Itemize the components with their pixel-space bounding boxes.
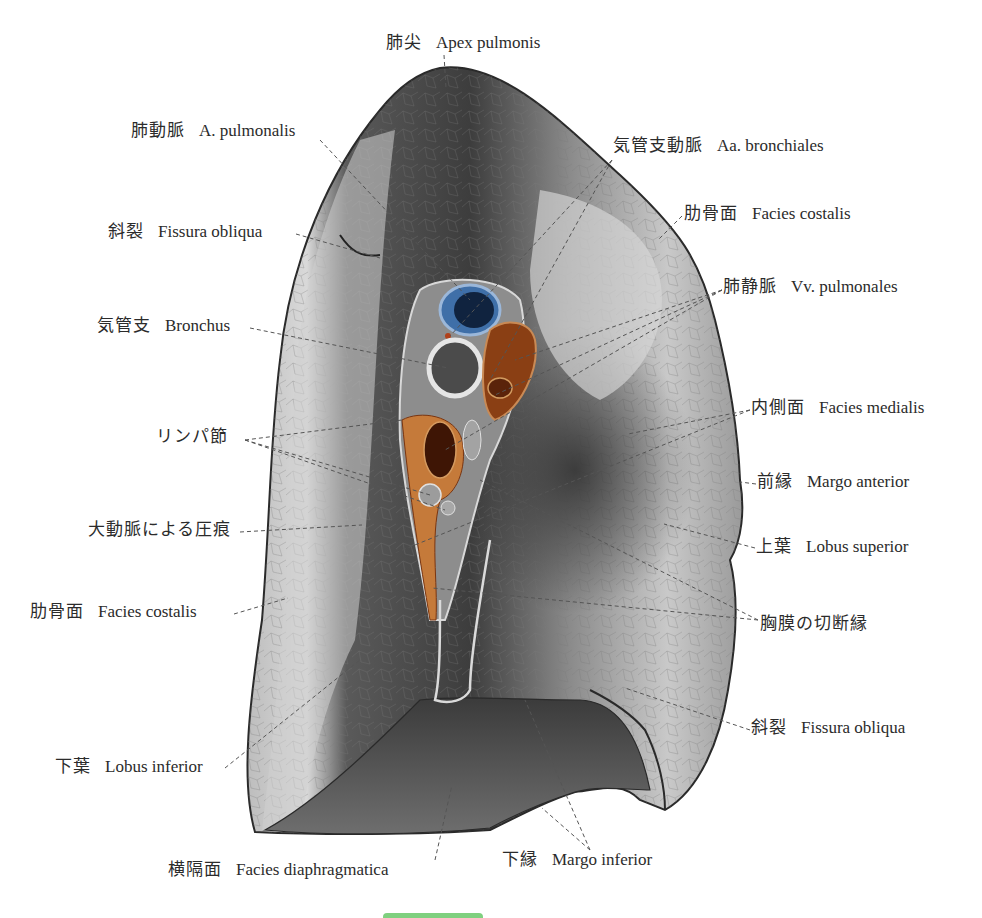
label-ja: 上葉 (756, 537, 792, 556)
label-ja: リンパ節 (156, 427, 228, 446)
label-latin: Facies medialis (819, 398, 924, 417)
label-vv-pulmonales: 肺静脈Vv. pulmonales (723, 277, 898, 297)
lymph-node (463, 420, 481, 460)
label-lobus-inferior: 下葉Lobus inferior (55, 757, 203, 777)
label-a-pulmonalis: 肺動脈A. pulmonalis (131, 121, 295, 141)
label-ja: 斜裂 (751, 718, 787, 737)
label-ja: 肋骨面 (30, 602, 84, 621)
label-ja: 前縁 (757, 472, 793, 491)
leader-line-margo-anterior (740, 482, 756, 484)
label-latin: Bronchus (165, 316, 230, 335)
label-ja: 気管支 (97, 316, 151, 335)
label-fissura-obliqua-upper: 斜裂Fissura obliqua (108, 222, 262, 242)
label-aa-bronchiales: 気管支動脈Aa. bronchiales (613, 136, 824, 156)
label-latin: Lobus inferior (105, 757, 203, 776)
label-latin: Vv. pulmonales (791, 277, 898, 296)
label-latin: Fissura obliqua (158, 222, 262, 241)
label-ja: 下縁 (502, 850, 538, 869)
label-lobus-superior: 上葉Lobus superior (756, 537, 908, 557)
label-latin: Fissura obliqua (801, 718, 905, 737)
label-margo-anterior: 前縁Margo anterior (757, 472, 909, 492)
label-latin: Apex pulmonis (436, 33, 540, 52)
label-bronchus: 気管支Bronchus (97, 316, 230, 336)
label-facies-medialis: 内側面Facies medialis (751, 398, 924, 418)
label-facies-costalis-lower: 肋骨面Facies costalis (30, 602, 197, 622)
label-latin: Facies costalis (752, 204, 851, 223)
label-aortic-impression: 大動脈による圧痕 (88, 520, 231, 540)
bronchus-lumen (429, 340, 481, 396)
lymph-node (441, 501, 455, 515)
bottom-tab-indicator (383, 913, 483, 918)
label-ja: 斜裂 (108, 222, 144, 241)
label-ja: 肺尖 (386, 33, 422, 52)
label-latin: Margo inferior (552, 850, 652, 869)
label-ja: 肺静脈 (723, 277, 777, 296)
label-latin: Facies diaphragmatica (236, 860, 388, 879)
label-ja: 横隔面 (168, 860, 222, 879)
label-fissura-obliqua-lower: 斜裂Fissura obliqua (751, 718, 905, 738)
leader-line-margo-inferior (542, 808, 590, 850)
label-lymph-nodes: リンパ節 (156, 427, 228, 447)
label-ja: 肋骨面 (684, 204, 738, 223)
label-apex: 肺尖Apex pulmonis (386, 33, 540, 53)
label-ja: 大動脈による圧痕 (88, 520, 231, 539)
label-latin: Margo anterior (807, 472, 909, 491)
label-facies-diaphragmatica: 横隔面Facies diaphragmatica (168, 860, 388, 880)
label-latin: Facies costalis (98, 602, 197, 621)
label-ja: 気管支動脈 (613, 136, 703, 155)
label-latin: Aa. bronchiales (717, 136, 824, 155)
lymph-node (419, 484, 441, 506)
label-ja: 下葉 (55, 757, 91, 776)
label-ja: 胸膜の切断縁 (760, 614, 868, 633)
label-pleura-cut-edge: 胸膜の切断縁 (760, 614, 868, 634)
label-latin: A. pulmonalis (199, 121, 295, 140)
label-ja: 内側面 (751, 398, 805, 417)
label-latin: Lobus superior (806, 537, 908, 556)
label-ja: 肺動脈 (131, 121, 185, 140)
label-facies-costalis-upper: 肋骨面Facies costalis (684, 204, 851, 224)
label-margo-inferior: 下縁Margo inferior (502, 850, 652, 870)
